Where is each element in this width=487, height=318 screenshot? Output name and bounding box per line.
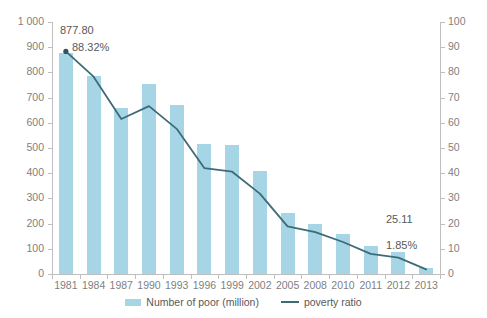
y-axis-left-tick-label: 1 000: [18, 16, 44, 27]
y-axis-right-tick-label: 20: [448, 218, 460, 229]
x-axis-tick: [412, 275, 413, 279]
legend-line-swatch-icon: [281, 301, 299, 303]
y-axis-right-tick-label: 100: [448, 16, 466, 27]
y-axis-right-tick: [441, 198, 445, 199]
x-axis-category-label: 2013: [414, 280, 437, 291]
x-axis-category-label: 2012: [387, 280, 410, 291]
x-axis-category-label: 1987: [110, 280, 133, 291]
y-axis-left-tick-label: 800: [26, 66, 44, 77]
legend-item-number-of-poor[interactable]: Number of poor (million): [125, 296, 259, 308]
legend-bar-swatch-icon: [125, 299, 141, 306]
x-axis-category-label: 1981: [54, 280, 77, 291]
y-axis-right-tick-label: 60: [448, 117, 460, 128]
y-axis-right-tick-label: 40: [448, 167, 460, 178]
plot-area: [52, 22, 440, 274]
y-axis-left-tick-label: 300: [26, 192, 44, 203]
y-axis-right-tick-label: 70: [448, 92, 460, 103]
annotation-last-value: 25.11: [386, 213, 413, 225]
y-axis-right-tick: [441, 173, 445, 174]
x-axis-tick: [274, 275, 275, 279]
x-axis-tick: [163, 275, 164, 279]
y-axis-right-tick: [441, 123, 445, 124]
annotation-last-ratio: 1.85%: [386, 239, 417, 251]
legend-item-poverty-ratio[interactable]: poverty ratio: [281, 296, 362, 308]
legend-label-number-of-poor: Number of poor (million): [146, 296, 259, 308]
x-axis-tick: [301, 275, 302, 279]
x-axis-tick: [357, 275, 358, 279]
poverty-ratio-line: [66, 51, 426, 269]
y-axis-left-tick-label: 400: [26, 167, 44, 178]
y-axis-right-tick-label: 50: [448, 142, 460, 153]
chart-legend: Number of poor (million) poverty ratio: [0, 296, 487, 308]
x-axis-tick: [107, 275, 108, 279]
y-axis-right-tick-label: 90: [448, 41, 460, 52]
x-axis-category-label: 1984: [82, 280, 105, 291]
poverty-ratio-line-svg: [52, 22, 440, 274]
x-axis-category-label: 1999: [220, 280, 243, 291]
poverty-ratio-first-point: [63, 49, 68, 54]
x-axis-tick: [440, 275, 441, 279]
y-axis-right-tick-label: 30: [448, 192, 460, 203]
y-axis-right-tick: [441, 47, 445, 48]
x-axis-tick: [191, 275, 192, 279]
x-axis-tick: [135, 275, 136, 279]
y-axis-left-tick-label: 200: [26, 218, 44, 229]
y-axis-left-tick-label: 600: [26, 117, 44, 128]
x-axis-category-label: 1996: [193, 280, 216, 291]
y-axis-right-tick: [441, 249, 445, 250]
annotation-peak-value: 877.80: [60, 24, 94, 36]
annotation-peak-ratio: 88.32%: [72, 41, 109, 53]
y-axis-right-tick: [441, 72, 445, 73]
x-axis-category-label: 1990: [137, 280, 160, 291]
y-axis-left-tick-label: 700: [26, 92, 44, 103]
x-axis-category-label: 2010: [331, 280, 354, 291]
x-axis-category-label: 2005: [276, 280, 299, 291]
y-axis-left-tick-label: 500: [26, 142, 44, 153]
x-axis-tick: [52, 275, 53, 279]
x-axis-tick: [80, 275, 81, 279]
legend-label-poverty-ratio: poverty ratio: [304, 296, 362, 308]
x-axis-tick: [329, 275, 330, 279]
x-axis-tick: [218, 275, 219, 279]
x-axis-tick: [385, 275, 386, 279]
y-axis-right-tick: [441, 148, 445, 149]
y-axis-left-tick-label: 900: [26, 41, 44, 52]
x-axis-category-label: 2011: [359, 280, 382, 291]
y-axis-right-tick: [441, 98, 445, 99]
y-axis-right-tick: [441, 224, 445, 225]
y-axis-left-tick-label: 100: [26, 243, 44, 254]
y-axis-left-tick-label: 0: [38, 268, 44, 279]
y-axis-right-tick-label: 80: [448, 66, 460, 77]
y-axis-right-tick-label: 10: [448, 243, 460, 254]
y-axis-right-tick: [441, 22, 445, 23]
y-axis-right-tick-label: 0: [448, 268, 454, 279]
y-axis-right-tick: [441, 274, 445, 275]
poverty-chart: 01002003004005006007008009001 0000102030…: [0, 0, 487, 318]
x-axis-category-label: 2008: [304, 280, 327, 291]
x-axis-category-label: 1993: [165, 280, 188, 291]
x-axis-category-label: 2002: [248, 280, 271, 291]
x-axis-tick: [246, 275, 247, 279]
